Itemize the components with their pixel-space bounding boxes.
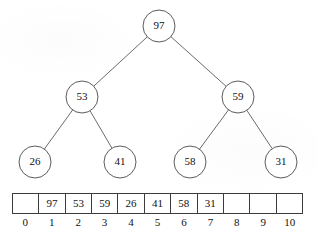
array-cell-0[interactable] <box>13 194 39 214</box>
array-index-0: 0 <box>12 215 38 229</box>
node-label-26: 26 <box>30 155 42 167</box>
tree-node-97[interactable]: 97 <box>143 10 175 42</box>
array-index-7: 7 <box>197 215 223 229</box>
tree-node-53[interactable]: 53 <box>66 81 98 113</box>
tree-edge-n59-to-n31 <box>247 110 272 148</box>
array-index-1: 1 <box>38 215 64 229</box>
tree-edge-n53-to-n26 <box>44 110 72 149</box>
node-label-58: 58 <box>185 155 197 167</box>
array-cell-6[interactable]: 58 <box>171 194 197 214</box>
array-cell-3[interactable]: 59 <box>92 194 118 214</box>
tree-node-59[interactable]: 59 <box>222 81 254 113</box>
array-index-row: 012345678910 <box>12 215 303 229</box>
array-index-9: 9 <box>250 215 276 229</box>
tree-node-layer: 97535926415831 <box>19 10 297 178</box>
array-cell-9[interactable] <box>250 194 276 214</box>
array-cell-2[interactable]: 53 <box>65 194 91 214</box>
array-representation: 97535926415831 012345678910 <box>12 193 303 229</box>
binary-tree-diagram: 97535926415831 <box>0 0 318 192</box>
node-label-59: 59 <box>233 90 245 102</box>
node-label-31: 31 <box>276 155 287 167</box>
array-cell-8[interactable] <box>223 194 249 214</box>
tree-edge-root-to-n59 <box>171 37 226 87</box>
tree-edge-n59-to-n58 <box>200 110 229 149</box>
tree-node-26[interactable]: 26 <box>19 146 51 178</box>
array-index-3: 3 <box>91 215 117 229</box>
tree-node-58[interactable]: 58 <box>174 146 206 178</box>
heap-array-table: 97535926415831 <box>12 193 303 214</box>
node-label-53: 53 <box>77 90 89 102</box>
heap-figure: 97535926415831 97535926415831 0123456789… <box>0 0 318 245</box>
tree-edge-root-to-n53 <box>94 37 147 86</box>
array-index-10: 10 <box>277 215 303 229</box>
array-cell-1[interactable]: 97 <box>39 194 65 214</box>
array-index-4: 4 <box>118 215 144 229</box>
node-label-97: 97 <box>154 19 166 31</box>
array-cell-4[interactable]: 26 <box>118 194 144 214</box>
array-index-5: 5 <box>144 215 170 229</box>
tree-node-41[interactable]: 41 <box>104 146 136 178</box>
array-index-8: 8 <box>224 215 250 229</box>
array-index-table: 012345678910 <box>12 215 303 229</box>
tree-node-31[interactable]: 31 <box>265 146 297 178</box>
array-cell-7[interactable]: 31 <box>197 194 223 214</box>
array-cell-5[interactable]: 41 <box>144 194 170 214</box>
array-cell-row: 97535926415831 <box>13 194 303 214</box>
node-label-41: 41 <box>115 155 126 167</box>
array-index-2: 2 <box>65 215 91 229</box>
array-cell-10[interactable] <box>276 194 302 214</box>
array-index-6: 6 <box>171 215 197 229</box>
tree-edge-n53-to-n41 <box>90 111 112 148</box>
